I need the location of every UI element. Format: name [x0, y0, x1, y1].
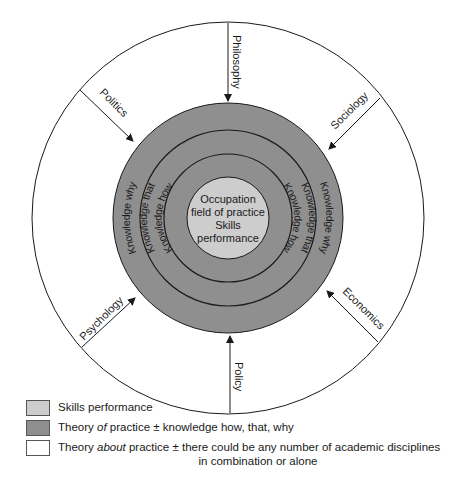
skills-circle	[187, 177, 269, 259]
legend: Skills performance Theory of practice ± …	[26, 399, 456, 475]
legend-continuation: in combination or alone	[26, 454, 430, 468]
legend-swatch-skills	[26, 400, 50, 416]
theory-practice-diagram: Occupation field of practice Skills perf…	[0, 0, 465, 420]
legend-label: Skills performance	[58, 400, 153, 414]
legend-prefix: Theory	[58, 421, 97, 433]
center-line-3: Skills	[215, 219, 241, 231]
legend-suffix: practice ± there could be any number of …	[126, 441, 440, 453]
center-line-1: Occupation	[200, 193, 256, 205]
legend-emphasis: of	[97, 421, 107, 433]
center-line-2: field of practice	[191, 206, 265, 218]
legend-label: Theory about practice ± there could be a…	[58, 440, 440, 454]
legend-item-theory-of: Theory of practice ± knowledge how, that…	[26, 419, 456, 439]
legend-item-theory-about: Theory about practice ± there could be a…	[26, 439, 456, 475]
center-line-4: performance	[197, 232, 259, 244]
legend-prefix: Theory	[58, 441, 97, 453]
legend-item-skills: Skills performance	[26, 399, 456, 419]
legend-suffix: practice ± knowledge how, that, why	[107, 421, 294, 433]
discipline-label-philosophy: Philosophy	[231, 35, 243, 89]
legend-label: Theory of practice ± knowledge how, that…	[58, 420, 294, 434]
discipline-label-policy: Policy	[233, 362, 245, 392]
legend-emphasis: about	[97, 441, 126, 453]
legend-swatch-theory-of	[26, 420, 50, 436]
